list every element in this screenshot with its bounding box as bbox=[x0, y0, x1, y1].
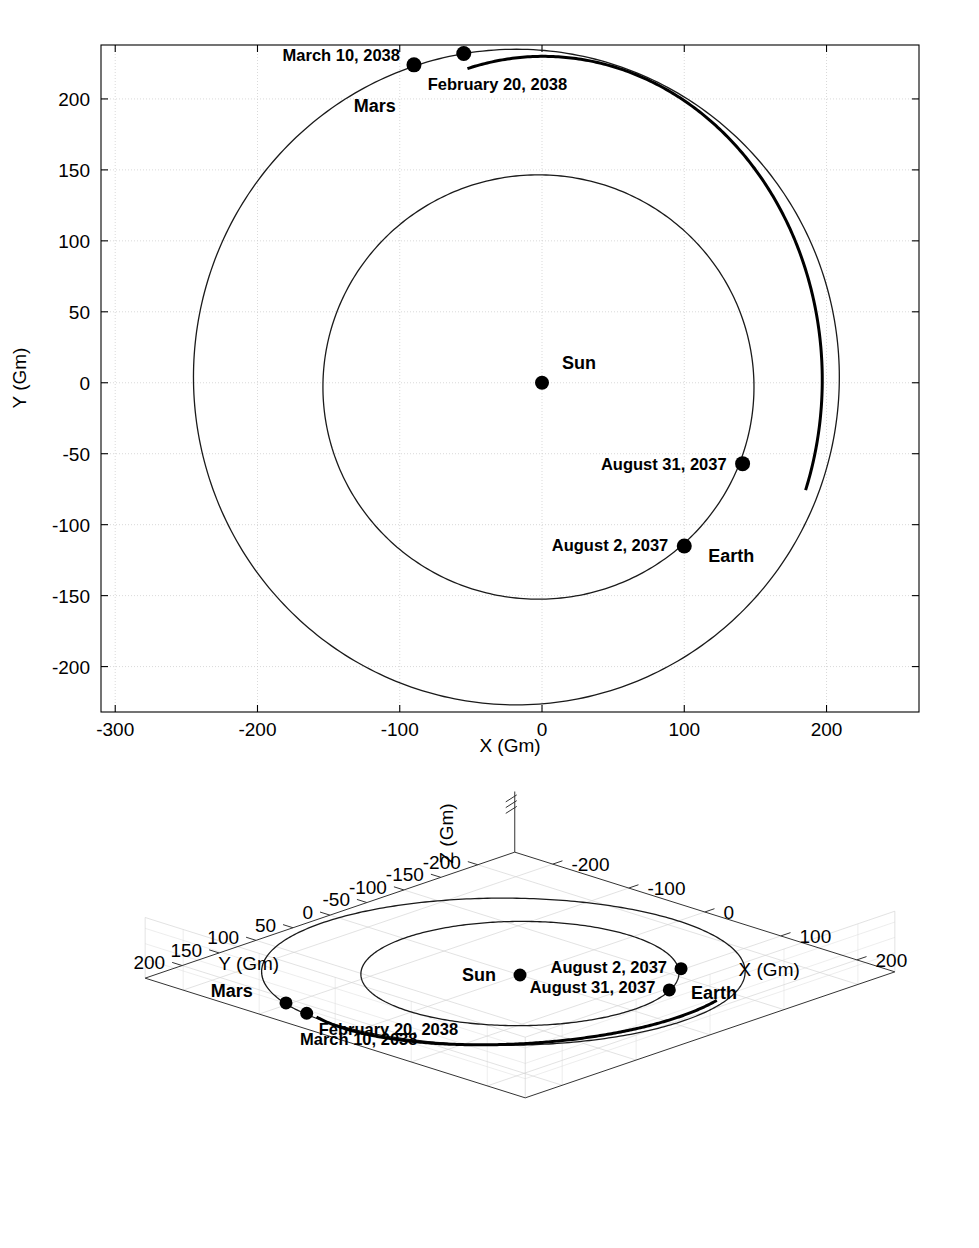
sun-marker bbox=[535, 376, 549, 390]
bottom-orbit-plot-3d: 200150100500-50-100-150-200-200-10001002… bbox=[0, 750, 979, 1248]
top-annotation-august-31-2037: August 31, 2037 bbox=[601, 455, 727, 473]
top-tick-labels: -300-200-1000100200200150100500-50-100-1… bbox=[52, 89, 842, 740]
bottom-y-axis-title: Y (Gm) bbox=[218, 953, 279, 974]
bottom-y-tick-label: -100 bbox=[349, 877, 387, 898]
y-tick-3d bbox=[468, 862, 478, 865]
event-marker-3d bbox=[675, 962, 688, 975]
bottom-x-tick-label: -200 bbox=[571, 854, 609, 875]
figure-canvas: -300-200-1000100200200150100500-50-100-1… bbox=[0, 0, 979, 1248]
bottom-annotation-march-10-2038: March 10, 2038 bbox=[300, 1030, 417, 1048]
top-orbit-curves bbox=[193, 49, 839, 705]
bottom-sun-label: Sun bbox=[462, 965, 496, 985]
top-sun-label: Sun bbox=[562, 353, 596, 373]
bottom-z-axis-title: Z (Gm) bbox=[436, 803, 457, 863]
top-x-tick-label: 100 bbox=[668, 719, 700, 740]
top-annotation-march-10-2038: March 10, 2038 bbox=[283, 46, 400, 64]
bottom-mars-label: Mars bbox=[211, 981, 253, 1001]
event-marker-3d bbox=[300, 1007, 313, 1020]
sun-marker-3d bbox=[514, 969, 527, 982]
top-earth-label: Earth bbox=[708, 546, 754, 566]
bottom-x-tick-label: 0 bbox=[723, 902, 734, 923]
y-tick-3d bbox=[431, 874, 441, 877]
bottom-y-tick-label: -150 bbox=[386, 864, 424, 885]
bottom-3d-wireframe bbox=[145, 911, 895, 1098]
x-tick-3d bbox=[553, 861, 563, 864]
y-tick-3d bbox=[394, 887, 404, 890]
top-y-tick-label: 0 bbox=[79, 373, 90, 394]
top-x-tick-label: -100 bbox=[381, 719, 419, 740]
top-annotation-february-20-2038: February 20, 2038 bbox=[428, 75, 567, 93]
top-mars-label: Mars bbox=[354, 96, 396, 116]
event-marker bbox=[406, 57, 421, 72]
y-tick-3d bbox=[357, 899, 367, 902]
x-tick-3d bbox=[857, 957, 867, 960]
bottom-y-tick-label: 150 bbox=[170, 940, 202, 961]
top-y-tick-label: 200 bbox=[58, 89, 90, 110]
top-x-tick-label: -200 bbox=[238, 719, 276, 740]
top-axes-frame bbox=[101, 45, 919, 712]
bottom-annotation-august-31-2037: August 31, 2037 bbox=[530, 978, 656, 996]
bottom-annotation-august-2-2037: August 2, 2037 bbox=[551, 958, 667, 976]
top-y-tick-label: -200 bbox=[52, 657, 90, 678]
top-event-markers bbox=[406, 46, 750, 553]
y-tick-3d bbox=[320, 912, 330, 915]
bottom-y-tick-label: 200 bbox=[133, 952, 165, 973]
y-tick-3d bbox=[246, 937, 256, 940]
y-tick-3d bbox=[283, 925, 293, 928]
event-marker-3d bbox=[663, 983, 676, 996]
transfer-trajectory bbox=[467, 56, 822, 490]
top-y-tick-label: -150 bbox=[52, 586, 90, 607]
top-y-tick-label: -100 bbox=[52, 515, 90, 536]
top-x-tick-label: -300 bbox=[96, 719, 134, 740]
x-tick-3d bbox=[781, 933, 791, 936]
top-y-tick-label: 50 bbox=[69, 302, 90, 323]
top-x-tick-label: 200 bbox=[811, 719, 843, 740]
orbit-mars-orbit bbox=[193, 49, 839, 705]
event-marker bbox=[456, 46, 471, 61]
bottom-x-tick-label: 100 bbox=[800, 926, 832, 947]
top-gridlines bbox=[101, 45, 919, 712]
bottom-x-axis-title: X (Gm) bbox=[739, 959, 800, 980]
x-tick-3d bbox=[705, 909, 715, 912]
x-tick-3d bbox=[629, 885, 639, 888]
event-marker bbox=[735, 456, 750, 471]
y-tick-3d bbox=[172, 962, 182, 965]
top-orbit-plot: -300-200-1000100200200150100500-50-100-1… bbox=[0, 0, 979, 760]
bottom-earth-label: Earth bbox=[691, 983, 737, 1003]
bottom-y-tick-label: -50 bbox=[322, 889, 349, 910]
bottom-y-tick-label: 100 bbox=[207, 927, 239, 948]
top-y-tick-label: -50 bbox=[63, 444, 90, 465]
top-y-tick-label: 150 bbox=[58, 160, 90, 181]
bottom-y-tick-label: 0 bbox=[302, 902, 313, 923]
top-y-axis-title: Y (Gm) bbox=[9, 348, 30, 409]
bottom-x-tick-label: 200 bbox=[876, 950, 908, 971]
bottom-3d-axis-lines bbox=[172, 792, 866, 966]
event-marker-3d bbox=[280, 996, 293, 1009]
event-marker bbox=[677, 538, 692, 553]
top-tick-marks bbox=[101, 45, 919, 712]
top-annotation-august-2-2037: August 2, 2037 bbox=[552, 536, 668, 554]
bottom-y-tick-label: 50 bbox=[255, 915, 276, 936]
bottom-x-tick-label: -100 bbox=[647, 878, 685, 899]
top-y-tick-label: 100 bbox=[58, 231, 90, 252]
